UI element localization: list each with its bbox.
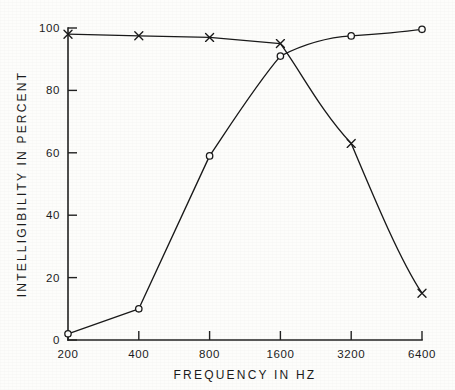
y-tick-label: 40 [46,209,60,221]
marker-circle [277,53,283,59]
y-tick-label: 20 [46,272,60,284]
marker-circle [419,26,425,32]
x-tick-labels: 200 400 800 1600 3200 6400 [58,348,436,360]
marker-circle [206,153,212,159]
x-tick-label: 200 [58,348,79,360]
marker-circle-group [65,26,425,337]
series-line-circle [68,29,422,334]
y-axis-ticks [68,28,77,340]
y-tick-labels: 100 80 60 40 20 0 [39,22,60,346]
x-axis-ticks [68,331,422,340]
chart-figure: 100 80 60 40 20 0 200 400 800 1600 3200 … [0,0,455,390]
x-tick-label: 3200 [337,348,365,360]
chart-plot-area: 100 80 60 40 20 0 200 400 800 1600 3200 … [0,0,455,390]
y-axis-title: INTELLIGIBILITY IN PERCENT [15,71,29,297]
x-tick-label: 400 [128,348,149,360]
series-line-x [68,34,422,293]
marker-circle [348,33,354,39]
marker-circle [136,306,142,312]
series-low-pass-filtered-speech [64,30,426,297]
marker-circle [65,331,71,337]
x-tick-label: 6400 [408,348,436,360]
y-tick-label: 60 [46,147,60,159]
x-tick-label: 800 [199,348,220,360]
series-high-pass-filtered-speech [65,26,425,337]
marker-x [64,30,426,297]
y-tick-label: 80 [46,84,60,96]
x-tick-label: 1600 [266,348,294,360]
y-tick-label: 100 [39,22,60,34]
y-tick-label: 0 [53,334,60,346]
x-axis-title: FREQUENCY IN HZ [174,368,317,382]
